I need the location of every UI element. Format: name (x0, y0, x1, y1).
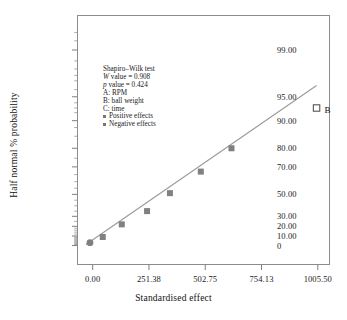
x-axis-tick-marks (93, 265, 318, 270)
legend-item-negative-effects: Negative effects (103, 121, 156, 129)
x-axis-tick-label: 0.00 (85, 274, 100, 284)
legend-label-negative: Negative effects (109, 121, 156, 129)
y-axis-tick-label: 99.00 (277, 45, 347, 55)
legend-square-icon (103, 115, 106, 118)
y-axis-tick-marks (72, 50, 77, 246)
x-axis-tick-label: 251.38 (137, 274, 161, 284)
y-axis-tick-label: 70.00 (277, 162, 347, 172)
x-axis-title: Standardised effect (0, 293, 347, 303)
y-axis-tick-label: 95.00 (277, 92, 347, 102)
y-axis-tick-label: 20.00 (277, 221, 347, 231)
data-point-label-b: B (325, 105, 331, 115)
annotation-block: Shapiro–Wilk test W value = 0.908 p valu… (103, 66, 156, 129)
chart-canvas: 99.0095.0090.0080.0070.0050.0030.0020.00… (0, 0, 347, 320)
y-axis-minor-ticks (74, 32, 77, 245)
y-axis-tick-label: 30.00 (277, 211, 347, 221)
y-axis-tick-label: 90.00 (277, 116, 347, 126)
x-axis-tick-label: 754.13 (250, 274, 274, 284)
x-axis-tick-label: 1005.50 (304, 274, 332, 284)
y-axis-tick-label: 50.00 (277, 189, 347, 199)
legend-square-icon (103, 123, 106, 126)
y-axis-title: Half normal % probability (9, 60, 19, 230)
w-value-text: value = 0.908 (109, 73, 150, 81)
y-axis-tick-label: 80.00 (277, 143, 347, 153)
p-value-text: value = 0.424 (107, 81, 148, 89)
y-axis-tick-label: 0 (277, 241, 347, 251)
x-axis-tick-label: 502.75 (193, 274, 217, 284)
y-axis-tick-label: 10.00 (277, 231, 347, 241)
